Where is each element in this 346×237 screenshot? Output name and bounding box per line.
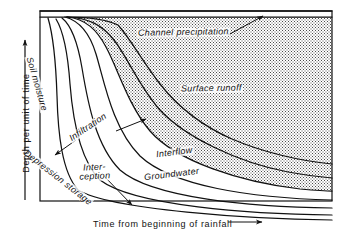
label-channel-precipitation: Channel precipitation	[137, 27, 230, 38]
y-axis-label: Depth per unit of time	[21, 53, 31, 193]
label-interception-line2: ception	[79, 171, 111, 182]
label-surface-runoff: Surface runoff	[180, 83, 243, 93]
label-interception: Inter- ception	[78, 162, 112, 182]
band-channel-precipitation	[40, 11, 332, 17]
rainfall-disposition-figure: Channel precipitation Surface runoff Int…	[0, 0, 346, 237]
x-axis-label: Time from beginning of rainfall	[93, 219, 232, 229]
leader-infiltration-right	[116, 119, 146, 131]
